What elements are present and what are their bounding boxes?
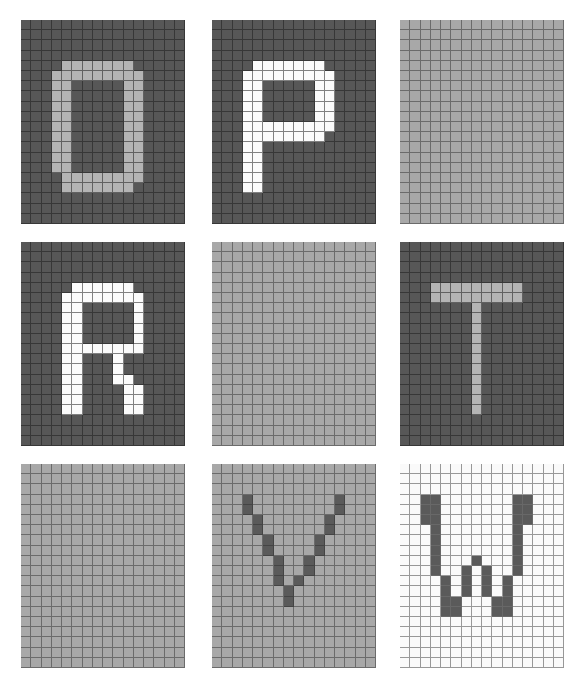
pixel-cell-empty [103,505,113,515]
pixel-cell-empty [335,474,345,484]
pixel-cell-empty [212,597,222,607]
pixel-cell-empty [345,313,355,323]
pixel-cell-empty [441,204,451,214]
pixel-cell-empty [274,262,284,272]
pixel-cell-empty [492,395,502,405]
pixel-cell-empty [124,637,134,647]
pixel-cell-empty [72,132,82,142]
pixel-cell-empty [21,132,31,142]
pixel-cell-empty [83,112,93,122]
pixel-cell-empty [212,637,222,647]
pixel-cell-empty [462,142,472,152]
pixel-cell-empty [441,546,451,556]
pixel-cell-empty [284,293,294,303]
pixel-cell-filled [284,586,294,596]
pixel-cell-filled [325,515,335,525]
pixel-cell-empty [523,183,533,193]
pixel-cell-empty [335,242,345,252]
pixel-cell-empty [304,607,314,617]
pixel-cell-empty [472,183,482,193]
pixel-cell-empty [274,313,284,323]
pixel-cell-empty [482,262,492,272]
pixel-cell-empty [175,71,185,81]
pixel-cell-empty [222,617,232,627]
pixel-cell-empty [253,426,263,436]
pixel-cell-empty [93,617,103,627]
pixel-cell-empty [144,183,154,193]
pixel-cell-empty [366,648,376,658]
pixel-cell-empty [52,303,62,313]
pixel-cell-empty [462,324,472,334]
pixel-cell-empty [554,607,564,617]
pixel-cell-empty [83,505,93,515]
pixel-cell-empty [42,658,52,668]
pixel-cell-empty [345,183,355,193]
pixel-cell-empty [325,142,335,152]
pixel-cell-empty [335,122,345,132]
pixel-cell-empty [83,334,93,344]
pixel-cell-empty [410,30,420,40]
pixel-cell-empty [124,627,134,637]
pixel-cell-empty [113,546,123,556]
pixel-cell-empty [42,204,52,214]
pixel-cell-empty [400,183,410,193]
pixel-cell-empty [253,303,263,313]
pixel-cell-filled [503,586,513,596]
pixel-cell-empty [544,283,554,293]
pixel-cell-filled [472,364,482,374]
pixel-cell-filled [62,405,72,415]
pixel-cell-empty [284,464,294,474]
pixel-cell-empty [134,627,144,637]
pixel-cell-empty [21,313,31,323]
pixel-cell-empty [284,648,294,658]
pixel-cell-empty [31,464,41,474]
pixel-cell-empty [212,535,222,545]
pixel-cell-empty [345,395,355,405]
pixel-cell-empty [345,91,355,101]
pixel-cell-empty [31,122,41,132]
pixel-cell-filled [243,91,253,101]
pixel-cell-empty [165,415,175,425]
pixel-cell-filled [62,122,72,132]
pixel-cell-empty [165,637,175,647]
pixel-cell-empty [42,324,52,334]
pixel-cell-empty [325,576,335,586]
pixel-cell-empty [462,515,472,525]
pixel-cell-filled [124,405,134,415]
pixel-cell-empty [31,375,41,385]
pixel-cell-empty [222,51,232,61]
pixel-cell-empty [400,122,410,132]
pixel-cell-empty [103,415,113,425]
pixel-cell-empty [554,436,564,446]
pixel-cell-empty [31,112,41,122]
pixel-cell-empty [462,525,472,535]
pixel-cell-empty [144,484,154,494]
pixel-cell-empty [144,273,154,283]
pixel-cell-empty [253,648,263,658]
pixel-cell-empty [462,193,472,203]
pixel-cell-empty [544,71,554,81]
pixel-cell-empty [212,193,222,203]
pixel-cell-empty [83,566,93,576]
pixel-cell-empty [62,617,72,627]
pixel-cell-empty [523,658,533,668]
pixel-cell-empty [124,364,134,374]
pixel-cell-empty [93,81,103,91]
pixel-cell-empty [243,627,253,637]
pixel-cell-empty [253,242,263,252]
pixel-cell-empty [175,464,185,474]
pixel-cell-filled [93,293,103,303]
pixel-cell-empty [222,436,232,446]
pixel-cell-empty [431,132,441,142]
pixel-cell-empty [21,204,31,214]
pixel-cell-empty [410,597,420,607]
pixel-cell-empty [400,354,410,364]
pixel-cell-empty [144,153,154,163]
pixel-cell-empty [222,586,232,596]
pixel-cell-empty [165,293,175,303]
pixel-cell-empty [222,535,232,545]
pixel-cell-empty [253,566,263,576]
pixel-cell-empty [263,364,273,374]
pixel-cell-empty [93,597,103,607]
pixel-cell-empty [410,91,420,101]
